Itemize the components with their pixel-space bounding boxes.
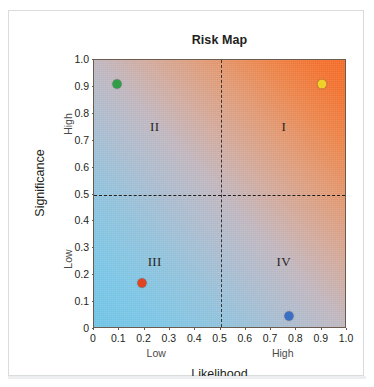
- x-tick-label: 0.5: [207, 332, 233, 344]
- x-axis-caption-low: Low: [126, 347, 186, 359]
- x-tick-label: 0.6: [232, 332, 258, 344]
- y-tick-mark: [92, 86, 94, 87]
- x-tick-label: 0.8: [282, 332, 308, 344]
- plot-area: IIIIIIIV: [93, 59, 346, 328]
- y-axis-caption-low: Low: [62, 234, 74, 284]
- x-tick-mark: [346, 328, 347, 330]
- x-tick-mark: [270, 328, 271, 330]
- y-tick-mark: [92, 247, 94, 248]
- x-tick-mark: [220, 328, 221, 330]
- y-tick-mark: [92, 113, 94, 114]
- green-point[interactable]: [112, 80, 121, 89]
- red-point[interactable]: [138, 279, 147, 288]
- x-tick-mark: [321, 328, 322, 330]
- y-tick-mark: [92, 220, 94, 221]
- x-axis-ticks: 00.10.20.30.40.50.60.70.80.91.0: [93, 330, 346, 346]
- y-tick-label: 1.0: [63, 53, 89, 65]
- y-tick-mark: [92, 301, 94, 302]
- x-tick-label: 0.9: [308, 332, 334, 344]
- reference-line-vertical: [221, 60, 222, 327]
- x-tick-mark: [245, 328, 246, 330]
- x-tick-mark: [295, 328, 296, 330]
- quadrant-label-iii: III: [148, 254, 162, 270]
- quadrant-label-i: I: [281, 119, 286, 135]
- x-tick-mark: [194, 328, 195, 330]
- y-tick-label: 0.6: [63, 161, 89, 173]
- x-tick-label: 0: [80, 332, 106, 344]
- yellow-point[interactable]: [317, 80, 326, 89]
- y-tick-label: 0.1: [63, 295, 89, 307]
- page-title: Risk Map: [93, 33, 346, 47]
- y-tick-label: 0.9: [63, 80, 89, 92]
- blue-point[interactable]: [284, 311, 293, 320]
- x-axis-title: Likelihood: [93, 367, 346, 381]
- y-axis-title: Significance: [33, 123, 47, 243]
- y-tick-label: 0.5: [63, 188, 89, 200]
- quadrant-label-ii: II: [150, 119, 159, 135]
- x-tick-label: 1.0: [333, 332, 359, 344]
- x-tick-label: 0.7: [257, 332, 283, 344]
- x-tick-mark: [93, 328, 94, 330]
- quadrant-label-iv: IV: [276, 254, 291, 270]
- x-tick-label: 0.4: [181, 332, 207, 344]
- y-tick-mark: [92, 274, 94, 275]
- y-tick-mark: [92, 140, 94, 141]
- y-tick-label: 0.4: [63, 214, 89, 226]
- x-tick-mark: [144, 328, 145, 330]
- x-tick-mark: [118, 328, 119, 330]
- x-axis-caption-high: High: [253, 347, 313, 359]
- figure-frame: Risk Map IIIIIIIV 00.10.20.30.40.50.60.7…: [8, 10, 364, 376]
- x-tick-label: 0.1: [105, 332, 131, 344]
- reference-line-horizontal: [94, 195, 345, 196]
- x-tick-label: 0.3: [156, 332, 182, 344]
- y-tick-mark: [92, 59, 94, 60]
- y-axis-caption-high: High: [62, 99, 74, 149]
- y-tick-mark: [92, 167, 94, 168]
- y-tick-mark: [92, 194, 94, 195]
- scan-texture-overlay: [94, 60, 345, 327]
- x-tick-mark: [169, 328, 170, 330]
- x-tick-label: 0.2: [131, 332, 157, 344]
